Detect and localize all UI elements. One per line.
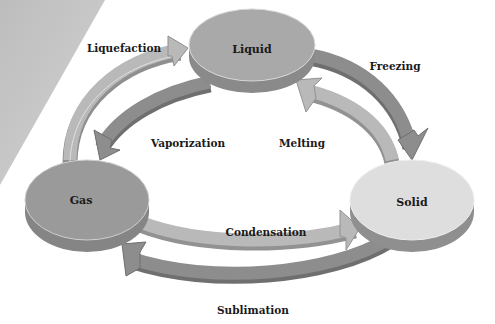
label-vaporization: Vaporization [151, 137, 225, 149]
label-freezing: Freezing [369, 60, 420, 72]
node-label-liquid: Liquid [232, 43, 271, 56]
label-sublimation: Sublimation [217, 304, 289, 316]
label-melting: Melting [279, 137, 325, 149]
label-liquefaction: Liquefaction [87, 42, 161, 54]
node-label-solid: Solid [396, 196, 427, 209]
node-label-gas: Gas [70, 194, 93, 207]
label-condensation: Condensation [226, 226, 307, 238]
